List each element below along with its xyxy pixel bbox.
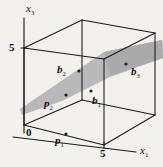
- axis-label-x3: x3: [26, 3, 34, 17]
- figure-container: x3 x1 5 5 0 b1 b2 b3 p1 p2: [0, 0, 163, 167]
- cube-edge-bottom-front-right: [104, 115, 155, 145]
- point-b3-dot: [124, 62, 127, 65]
- point-label-p1: p1: [55, 135, 64, 149]
- point-label-b3-sub: 3: [137, 72, 140, 79]
- point-p1-dot: [64, 132, 67, 135]
- cube-edge-top-back-left: [24, 20, 82, 48]
- point-b1-dot: [89, 89, 92, 92]
- point-label-b2: b2: [57, 64, 66, 78]
- axis-label-x1: x1: [140, 145, 148, 159]
- point-label-b1-sub: 1: [98, 101, 101, 108]
- point-label-p1-sub: 1: [61, 141, 64, 148]
- point-label-p2: p2: [44, 98, 53, 112]
- tick-label-x3-5: 5: [9, 42, 15, 53]
- cube-edge-top-back-right: [82, 20, 155, 33]
- axis-label-x3-sub: 3: [31, 9, 34, 16]
- point-label-b3: b3: [131, 66, 140, 80]
- point-label-b2-sub: 2: [63, 70, 66, 77]
- point-label-p2-sub: 2: [50, 104, 53, 111]
- axis-x1-line: [13, 137, 136, 152]
- tick-label-x1-5: 5: [100, 148, 106, 159]
- axis-label-x1-sub: 1: [145, 151, 148, 158]
- cube-edge-bottom-front-left: [24, 125, 104, 145]
- point-b2-dot: [77, 69, 80, 72]
- point-label-b1: b1: [92, 95, 101, 109]
- point-p2-dot: [64, 93, 67, 96]
- cube-edge-top-front-left: [24, 48, 104, 59]
- three-d-diagram-svg: [0, 0, 163, 167]
- origin-label: 0: [26, 127, 32, 138]
